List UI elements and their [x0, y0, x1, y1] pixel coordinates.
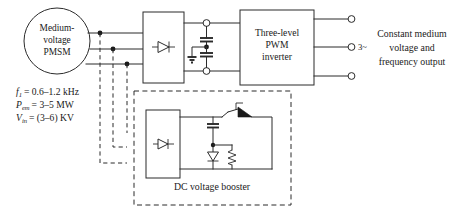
pmsm-label-line2: voltage [43, 35, 71, 45]
output-terminals-group: 3~ [314, 16, 367, 80]
parameters-group: f1= 0.6–1.2 kHz Pem= 3–5 MW Vin= (3–6) K… [15, 86, 79, 124]
output-terminal-b [348, 44, 355, 51]
parameter-value-0: = 0.6–1.2 kHz [24, 86, 79, 97]
booster-output-return-wire [252, 117, 272, 169]
parameter-value-2: = (3–6) KV [29, 112, 74, 124]
dc-positive-terminal [203, 20, 210, 27]
parameter-row-0: f1= 0.6–1.2 kHz [16, 86, 79, 98]
parameter-value-1: = 3–5 MW [32, 99, 75, 110]
pmsm-label-line1: Medium- [40, 23, 75, 33]
inverter-label-line1: Three-level [255, 27, 300, 38]
inverter-group: Three-level PWM inverter [240, 10, 314, 85]
diagram-canvas: Medium- voltage PMSM [0, 0, 471, 217]
booster-switch-blade [228, 109, 238, 112]
main-rectifier-group [143, 12, 184, 83]
power-electronics-schematic: Medium- voltage PMSM [0, 0, 471, 217]
booster-label: DC voltage booster [174, 181, 251, 192]
parameter-subscript-0: 1 [19, 91, 22, 98]
output-desc-line2: voltage and [389, 42, 435, 53]
output-description-group: Constant medium voltage and frequency ou… [377, 28, 447, 67]
booster-switch-left-lead [222, 112, 228, 117]
dc-link-group [184, 20, 240, 75]
dc-negative-terminal [203, 68, 210, 75]
parameter-subscript-1: em [22, 104, 30, 111]
parameter-row-1: Pem= 3–5 MW [15, 99, 75, 111]
booster-tap-dashed-lines [100, 33, 127, 163]
parameter-subscript-2: in [22, 117, 28, 124]
output-desc-line3: frequency output [379, 56, 446, 67]
booster-vdiode-triangle [208, 152, 219, 161]
ground-branch-wire [192, 47, 207, 57]
inverter-label-line3: inverter [262, 51, 293, 62]
output-terminal-a [348, 16, 355, 23]
booster-thyristor-triangle [238, 107, 252, 117]
three-phase-symbol-label: 3~ [358, 42, 367, 52]
pmsm-label-line3: PMSM [43, 47, 71, 57]
output-terminal-c [348, 73, 355, 80]
output-desc-line1: Constant medium [377, 28, 447, 39]
phase-wires-group [86, 31, 143, 67]
parameter-row-2: Vin= (3–6) KV [16, 112, 74, 124]
inverter-label-line2: PWM [266, 39, 289, 50]
pmsm-machine-group: Medium- voltage PMSM [24, 8, 90, 74]
dc-voltage-booster-group: DC voltage booster [134, 91, 291, 205]
booster-resistor-zigzag [228, 150, 236, 165]
